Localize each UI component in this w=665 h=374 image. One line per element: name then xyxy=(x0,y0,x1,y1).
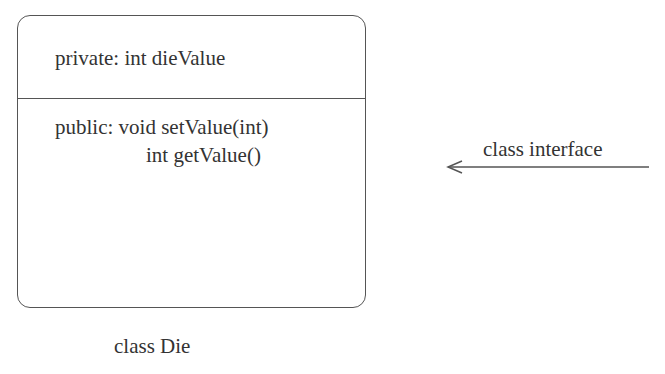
public-method-getvalue: int getValue() xyxy=(146,143,261,167)
left-arrow-icon xyxy=(444,158,654,176)
class-caption: class Die xyxy=(114,334,190,358)
public-method-setvalue: public: void setValue(int) xyxy=(55,115,268,139)
section-divider xyxy=(18,98,365,99)
private-member-text: private: int dieValue xyxy=(55,46,225,70)
